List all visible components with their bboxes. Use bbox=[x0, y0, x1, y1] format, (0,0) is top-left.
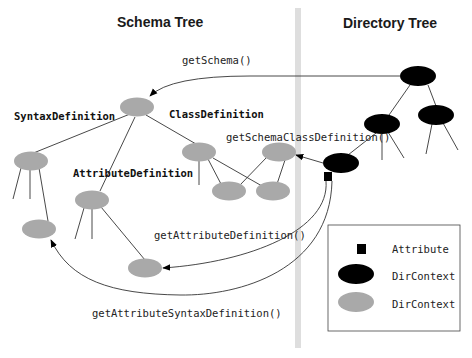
schema-directory-diagram: Schema Tree Directory Tree bbox=[0, 0, 472, 358]
class-definition-node[interactable] bbox=[182, 143, 216, 162]
syntax-child-node[interactable] bbox=[22, 220, 56, 239]
legend-label: Attribute bbox=[392, 243, 449, 255]
legend-dircontext-gray-icon bbox=[338, 292, 374, 312]
directory-root-node[interactable] bbox=[400, 66, 436, 86]
attribute-definition-label: AttributeDefinition bbox=[73, 167, 193, 179]
legend-dircontext-black-icon bbox=[338, 264, 374, 284]
get-attribute-syntax-definition-label: getAttributeSyntaxDefinition() bbox=[92, 307, 282, 319]
syntax-definition-label: SyntaxDefinition bbox=[14, 110, 115, 122]
directory-target-node[interactable] bbox=[323, 153, 359, 173]
schema-class-node[interactable] bbox=[262, 143, 296, 162]
class-child-node[interactable] bbox=[256, 182, 290, 201]
attribute-child-node[interactable] bbox=[128, 259, 162, 278]
get-schema-arrow bbox=[150, 76, 400, 96]
legend: Attribute DirContext DirContext bbox=[328, 225, 460, 331]
attribute-square[interactable] bbox=[324, 172, 332, 181]
get-attribute-definition-label: getAttributeDefinition() bbox=[154, 229, 306, 241]
get-schema-class-definition-label: getSchemaClassDefinition() bbox=[226, 131, 390, 143]
class-definition-label: ClassDefinition bbox=[169, 108, 264, 120]
legend-label: DirContext bbox=[392, 298, 455, 310]
get-schema-label: getSchema() bbox=[182, 54, 252, 66]
syntax-definition-node[interactable] bbox=[14, 152, 48, 171]
class-child-node[interactable] bbox=[212, 182, 246, 201]
attribute-definition-node[interactable] bbox=[75, 191, 109, 210]
directory-tree-title: Directory Tree bbox=[343, 15, 437, 31]
schema-tree-title: Schema Tree bbox=[117, 14, 204, 30]
schema-root-node[interactable] bbox=[120, 98, 154, 117]
directory-child-node[interactable] bbox=[418, 105, 454, 125]
legend-label: DirContext bbox=[392, 270, 455, 282]
section-divider bbox=[295, 8, 301, 348]
legend-attribute-icon bbox=[357, 244, 366, 254]
